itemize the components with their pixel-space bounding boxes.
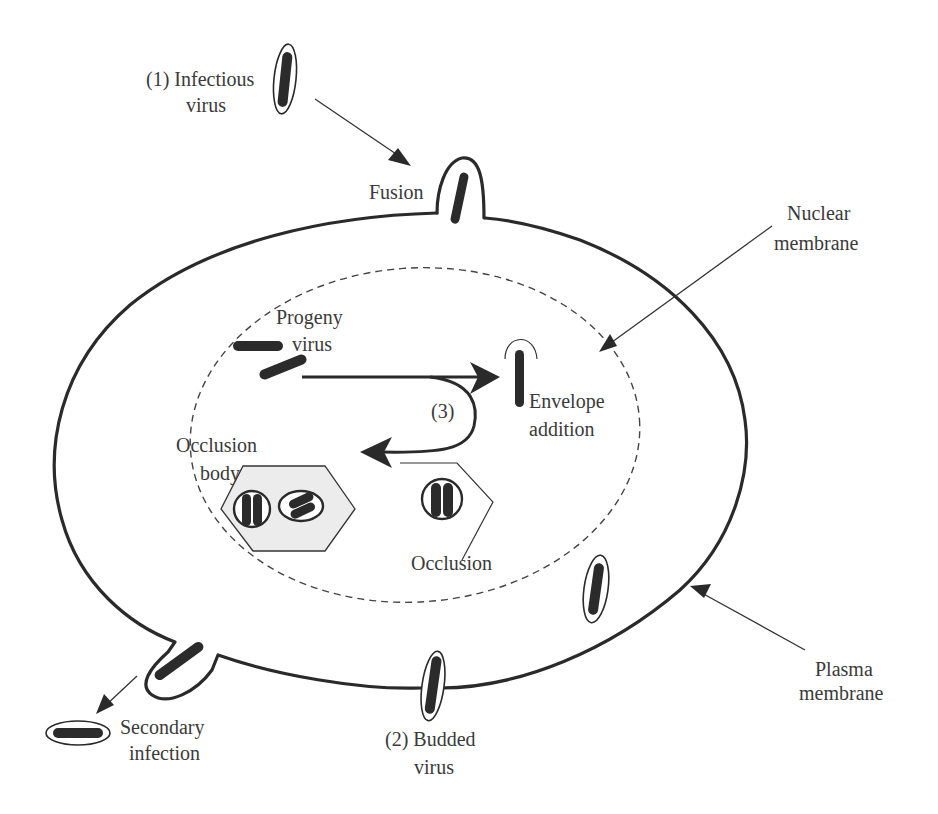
plasma-membrane [54,213,746,699]
label-progeny-virus-1: Progeny [276,306,343,329]
label-step-3: (3) [431,400,454,423]
label-envelope-addition-1: Envelope [529,390,605,413]
label-occlusion-body-1: Occlusion [176,434,257,456]
arrow-curve-3 [382,377,475,452]
label-budded-virus-1: (2) Budded [385,728,476,751]
pointer-nuclear-membrane [608,226,772,345]
arrow-infection [315,99,402,158]
fusion-virus [450,172,470,225]
pointer-plasma-membrane [700,592,805,650]
progeny-virus-2 [258,353,308,381]
label-infectious-virus-1: (1) Infectious [146,68,255,91]
label-fusion: Fusion [369,181,423,203]
label-secondary-infection-1: Secondary [120,716,204,739]
occluded-virion-1 [234,491,270,527]
budded-virus-on-membrane [417,650,449,722]
label-envelope-addition-2: addition [529,418,595,440]
occlusion-virion [400,463,493,560]
label-occlusion: Occlusion [411,552,492,574]
label-plasma-membrane-1: Plasma [815,658,873,680]
secondary-infection-virus [46,721,110,745]
infectious-virus [270,43,299,115]
label-infectious-virus-2: virus [186,94,226,116]
occluded-virion-2 [279,491,323,521]
budded-virus-inside [579,554,612,625]
progeny-virus-1 [233,341,283,351]
label-plasma-membrane-2: membrane [799,682,884,704]
label-secondary-infection-2: infection [129,742,200,764]
arrow-secondary-infection-head [96,694,114,714]
infection-cycle-diagram: (1) Infectious virus Fusion Nuclear memb… [0,0,938,814]
label-occlusion-body-2: body [200,462,240,485]
label-progeny-virus-2: virus [292,333,332,355]
label-nuclear-membrane-2: membrane [774,232,859,254]
label-nuclear-membrane-1: Nuclear [787,202,851,224]
label-budded-virus-2: virus [414,756,454,778]
